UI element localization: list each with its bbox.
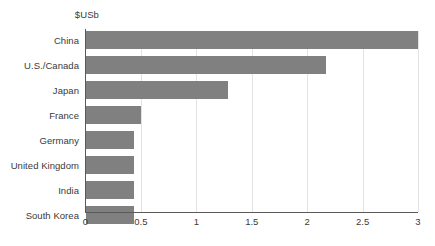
category-label-china: China [0,31,79,49]
x-tick-label-1-5: 1.5 [245,216,258,227]
bar-france [86,106,141,124]
x-tick-label-3: 3 [415,216,420,227]
x-tick-label-2-5: 2.5 [356,216,369,227]
bar-row [86,81,419,99]
category-label-india: India [0,181,79,199]
bar-united-kingdom [86,156,135,174]
x-tick-label-1: 1 [194,216,199,227]
x-axis-tick-labels: 00.511.522.53 [0,216,435,232]
bar-row [86,181,419,199]
bar-row [86,106,419,124]
bar-chart: $USb China U.S./Canada Japan France Germ… [0,0,435,246]
unit-label: $USb [0,9,99,20]
y-axis-line [85,29,86,213]
category-label-us-canada: U.S./Canada [0,56,79,74]
category-axis-labels: China U.S./Canada Japan France Germany U… [0,31,79,231]
bar-u-s-canada [86,56,327,74]
bar-row [86,156,419,174]
bar-germany [86,131,135,149]
category-label-germany: Germany [0,131,79,149]
category-label-japan: Japan [0,81,79,99]
x-tick-label-0-5: 0.5 [134,216,147,227]
bar-japan [86,81,229,99]
gridline-3 [418,31,419,212]
bar-row [86,131,419,149]
x-tick-label-0: 0 [83,216,88,227]
category-label-france: France [0,106,79,124]
category-label-united-kingdom: United Kingdom [0,156,79,174]
bar-india [86,181,135,199]
bar-row [86,31,419,49]
x-tick-label-2: 2 [305,216,310,227]
x-axis-line [85,212,418,213]
bar-row [86,56,419,74]
bar-china [86,31,419,49]
plot-area [86,31,419,212]
bar-series [86,31,419,231]
